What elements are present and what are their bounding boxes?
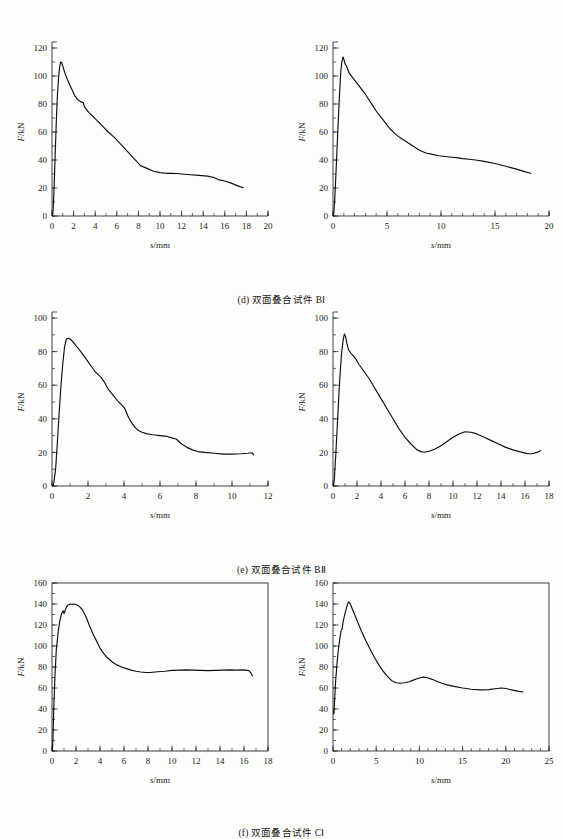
svg-text:0: 0 [43, 211, 48, 221]
svg-text:100: 100 [315, 71, 329, 81]
svg-text:120: 120 [315, 43, 329, 53]
svg-text:60: 60 [38, 683, 48, 693]
chart-panel-d-right: 05101520020406080100120s/mmF/kN [281, 30, 562, 265]
svg-text:F/kN: F/kN [297, 657, 307, 678]
chart-panel-d-left: 02468101214161820020406080100120s/mmF/kN [0, 30, 281, 265]
svg-text:14: 14 [199, 221, 209, 231]
svg-text:100: 100 [34, 641, 48, 651]
svg-text:s/mm: s/mm [431, 510, 451, 520]
svg-text:20: 20 [38, 448, 48, 458]
svg-text:15: 15 [458, 756, 468, 766]
chart-svg-f-left: 024681012141618020406080100120140160s/mm… [0, 565, 281, 800]
svg-text:80: 80 [319, 99, 329, 109]
svg-text:0: 0 [50, 756, 55, 766]
svg-text:40: 40 [319, 704, 329, 714]
svg-text:0: 0 [50, 491, 55, 501]
svg-text:F/kN: F/kN [297, 392, 307, 413]
svg-text:140: 140 [315, 599, 329, 609]
svg-text:18: 18 [545, 491, 555, 501]
svg-text:4: 4 [93, 221, 98, 231]
svg-text:16: 16 [521, 491, 531, 501]
svg-text:10: 10 [415, 756, 425, 766]
svg-text:160: 160 [315, 578, 329, 588]
svg-text:4: 4 [98, 756, 103, 766]
svg-text:4: 4 [379, 491, 384, 501]
svg-text:0: 0 [331, 756, 336, 766]
svg-text:10: 10 [228, 491, 238, 501]
svg-text:0: 0 [324, 211, 329, 221]
svg-text:40: 40 [38, 414, 48, 424]
svg-text:10: 10 [168, 756, 178, 766]
svg-text:0: 0 [43, 481, 48, 491]
svg-text:0: 0 [50, 221, 55, 231]
svg-text:80: 80 [38, 347, 48, 357]
svg-text:2: 2 [86, 491, 91, 501]
svg-text:2: 2 [355, 491, 360, 501]
svg-text:10: 10 [437, 221, 447, 231]
svg-text:14: 14 [497, 491, 507, 501]
svg-text:20: 20 [319, 725, 329, 735]
svg-text:15: 15 [491, 221, 501, 231]
svg-text:2: 2 [74, 756, 79, 766]
svg-text:s/mm: s/mm [150, 775, 170, 785]
svg-text:12: 12 [264, 491, 273, 501]
svg-text:6: 6 [158, 491, 163, 501]
svg-text:120: 120 [34, 620, 48, 630]
svg-text:6: 6 [122, 756, 127, 766]
svg-text:0: 0 [324, 481, 329, 491]
svg-text:160: 160 [34, 578, 48, 588]
svg-text:120: 120 [34, 43, 48, 53]
svg-text:s/mm: s/mm [431, 240, 451, 250]
chart-svg-d-right: 05101520020406080100120s/mmF/kN [281, 30, 562, 265]
chart-svg-d-left: 02468101214161820020406080100120s/mmF/kN [0, 30, 281, 265]
svg-text:0: 0 [43, 746, 48, 756]
chart-panel-e-left: 024681012020406080100s/mmF/kN [0, 300, 281, 535]
svg-text:80: 80 [38, 99, 48, 109]
svg-text:40: 40 [38, 704, 48, 714]
svg-text:8: 8 [194, 491, 199, 501]
chart-panel-e-right: 024681012141618020406080100s/mmF/kN [281, 300, 562, 535]
svg-text:12: 12 [473, 491, 482, 501]
figure-row-e: 024681012020406080100s/mmF/kN 0246810121… [0, 300, 563, 562]
svg-text:20: 20 [38, 725, 48, 735]
caption-f: (f) 双面叠合试件 CⅠ [0, 825, 563, 839]
svg-text:40: 40 [38, 155, 48, 165]
svg-text:25: 25 [545, 756, 555, 766]
svg-text:6: 6 [403, 491, 408, 501]
svg-text:60: 60 [319, 683, 329, 693]
svg-text:60: 60 [319, 380, 329, 390]
svg-text:80: 80 [319, 347, 329, 357]
svg-text:100: 100 [34, 313, 48, 323]
svg-text:20: 20 [545, 221, 555, 231]
svg-text:120: 120 [315, 620, 329, 630]
svg-text:F/kN: F/kN [16, 392, 26, 413]
svg-text:s/mm: s/mm [150, 510, 170, 520]
svg-text:100: 100 [315, 313, 329, 323]
svg-text:20: 20 [319, 183, 329, 193]
svg-text:20: 20 [501, 756, 511, 766]
svg-text:0: 0 [324, 746, 329, 756]
svg-text:80: 80 [319, 662, 329, 672]
svg-text:8: 8 [136, 221, 141, 231]
svg-text:100: 100 [315, 641, 329, 651]
svg-text:5: 5 [385, 221, 390, 231]
svg-text:18: 18 [264, 756, 274, 766]
svg-text:20: 20 [319, 448, 329, 458]
svg-text:40: 40 [319, 414, 329, 424]
svg-text:18: 18 [242, 221, 252, 231]
svg-text:60: 60 [38, 127, 48, 137]
svg-text:F/kN: F/kN [297, 122, 307, 143]
svg-text:20: 20 [264, 221, 274, 231]
svg-text:5: 5 [374, 756, 379, 766]
figure-row-f: 024681012141618020406080100120140160s/mm… [0, 565, 563, 830]
svg-text:2: 2 [71, 221, 76, 231]
chart-panel-f-left: 024681012141618020406080100120140160s/mm… [0, 565, 281, 800]
svg-text:60: 60 [38, 380, 48, 390]
svg-text:10: 10 [449, 491, 459, 501]
svg-text:12: 12 [192, 756, 201, 766]
svg-text:14: 14 [216, 756, 226, 766]
chart-svg-e-right: 024681012141618020406080100s/mmF/kN [281, 300, 562, 535]
svg-text:F/kN: F/kN [16, 657, 26, 678]
chart-panel-f-right: 0510152025020406080100120140160s/mmF/kN [281, 565, 562, 800]
figure-row-d: 02468101214161820020406080100120s/mmF/kN… [0, 30, 563, 292]
